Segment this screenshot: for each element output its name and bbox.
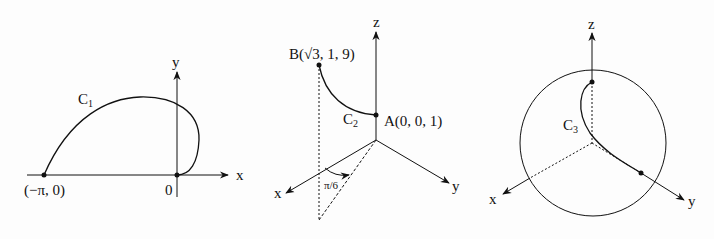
start-point-label: (−π, 0) [24, 182, 65, 199]
figure: x y C1 (−π, 0) 0 z x y B(√3, 1, 9) A(0, … [0, 0, 714, 239]
curve-label: C2 [343, 111, 358, 129]
origin-label: 0 [165, 182, 173, 198]
y-label: y [688, 193, 696, 209]
x-label: x [236, 167, 244, 183]
panel-c3: z x y C3 [489, 16, 696, 216]
panel-c1: x y C1 (−π, 0) 0 [24, 54, 244, 199]
point-b [317, 63, 322, 68]
point-origin [175, 173, 180, 178]
panel-c2: z x y B(√3, 1, 9) A(0, 0, 1) C2 π/6 [274, 14, 460, 220]
y-label: y [452, 178, 460, 194]
z-label: z [588, 16, 595, 32]
curve-label: C1 [78, 91, 93, 109]
curve-c3 [581, 82, 641, 173]
y-axis [376, 140, 449, 183]
curve-c2 [319, 65, 376, 115]
y-label: y [172, 54, 180, 70]
point-a [374, 113, 379, 118]
curve-c1 [44, 97, 199, 175]
angle-label: π/6 [324, 179, 339, 191]
point-end [639, 171, 644, 176]
point-start [42, 173, 47, 178]
x-axis [503, 178, 530, 194]
point-top [590, 80, 595, 85]
curve-label: C3 [563, 117, 578, 135]
x-label: x [489, 191, 497, 207]
x-label: x [274, 185, 282, 201]
angle-arc [325, 168, 349, 175]
z-label: z [373, 14, 380, 30]
y-axis [641, 173, 684, 200]
point-b-label: B(√3, 1, 9) [289, 46, 355, 63]
point-a-label: A(0, 0, 1) [384, 113, 442, 130]
x-axis-hidden [530, 143, 592, 178]
sphere [520, 70, 666, 216]
